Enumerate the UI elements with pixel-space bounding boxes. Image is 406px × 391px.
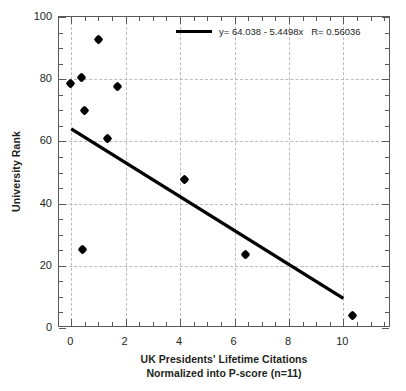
x-axis-title-line2: Normalized into P-score (n=11) xyxy=(58,366,390,380)
data-point xyxy=(93,34,103,44)
y-tick-label: 80 xyxy=(20,72,52,84)
y-axis-title-wrapper: University Rank xyxy=(8,16,24,327)
y-tick-major-right xyxy=(382,328,389,329)
data-point xyxy=(79,106,89,116)
x-tick-label: 0 xyxy=(67,335,73,347)
data-point xyxy=(102,134,112,144)
y-tick-label: 20 xyxy=(20,259,52,271)
data-point xyxy=(65,79,75,89)
x-tick-label: 2 xyxy=(122,335,128,347)
legend-equation-label: y= 64.038 - 5.4498x R= 0.56036 xyxy=(219,26,361,37)
data-point xyxy=(76,72,86,82)
data-point xyxy=(77,244,87,254)
x-tick-label: 6 xyxy=(230,335,236,347)
x-tick-label: 4 xyxy=(176,335,182,347)
y-tick-label: 60 xyxy=(20,134,52,146)
y-axis-title: University Rank xyxy=(8,16,24,327)
legend-line-swatch xyxy=(176,30,212,34)
x-tick-label: 10 xyxy=(336,335,348,347)
data-point xyxy=(348,311,358,321)
plot-area xyxy=(58,16,390,327)
scatter-plot-figure: University Rank 0246810 020406080100 y= … xyxy=(0,0,406,391)
data-point xyxy=(179,175,189,185)
y-tick-label: 40 xyxy=(20,197,52,209)
legend: y= 64.038 - 5.4498x R= 0.56036 xyxy=(176,26,361,37)
x-tick-label: 8 xyxy=(285,335,291,347)
x-axis-title: UK Presidents' Lifetime Citations Normal… xyxy=(58,352,390,380)
data-point xyxy=(241,250,251,260)
y-tick-label: 100 xyxy=(20,10,52,22)
y-tick-label: 0 xyxy=(20,321,52,333)
x-axis-title-line1: UK Presidents' Lifetime Citations xyxy=(58,352,390,366)
data-point xyxy=(112,81,122,91)
y-tick-major xyxy=(59,328,66,329)
data-points-layer xyxy=(59,17,389,326)
